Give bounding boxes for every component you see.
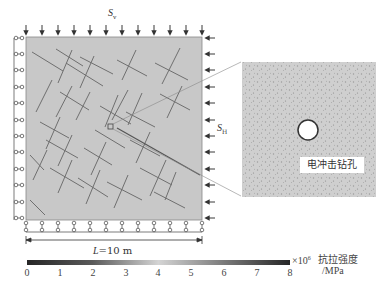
colorbar-tick: 3	[124, 267, 129, 278]
colorbar-unit: /MPa	[322, 265, 344, 276]
model-diagram	[0, 0, 383, 292]
colorbar-tick: 7	[255, 267, 260, 278]
inset-borehole-view	[242, 62, 376, 197]
dimension-label: L=10 m	[93, 245, 132, 256]
length-value: =10 m	[99, 245, 133, 256]
inset-label: 电冲击钻孔	[300, 157, 364, 173]
horizontal-load-arrows	[207, 38, 215, 218]
colorbar-title: 抗拉强度	[318, 251, 358, 266]
colorbar-tick: 8	[288, 267, 293, 278]
colorbar-tick: 2	[91, 267, 96, 278]
multiplier-exponent: 6	[308, 255, 311, 261]
dimension-line	[26, 236, 202, 244]
horizontal-stress-label: SH	[217, 122, 227, 135]
sv-subscript: v	[113, 13, 116, 20]
colorbar-tick: 1	[58, 267, 63, 278]
multiplier-base: ×10	[292, 255, 308, 266]
sh-subscript: H	[222, 128, 227, 135]
colorbar-tick: 0	[25, 267, 30, 278]
colorbar	[27, 260, 290, 265]
left-roller-supports	[14, 36, 24, 220]
colorbar-tick: 6	[222, 267, 227, 278]
colorbar-tick: 5	[189, 267, 194, 278]
colorbar-tick: 4	[156, 267, 161, 278]
vertical-stress-label: Sv	[108, 7, 116, 20]
vertical-load-arrows	[26, 25, 202, 33]
colorbar-multiplier: ×106	[292, 255, 311, 266]
bottom-roller-supports	[24, 221, 204, 232]
